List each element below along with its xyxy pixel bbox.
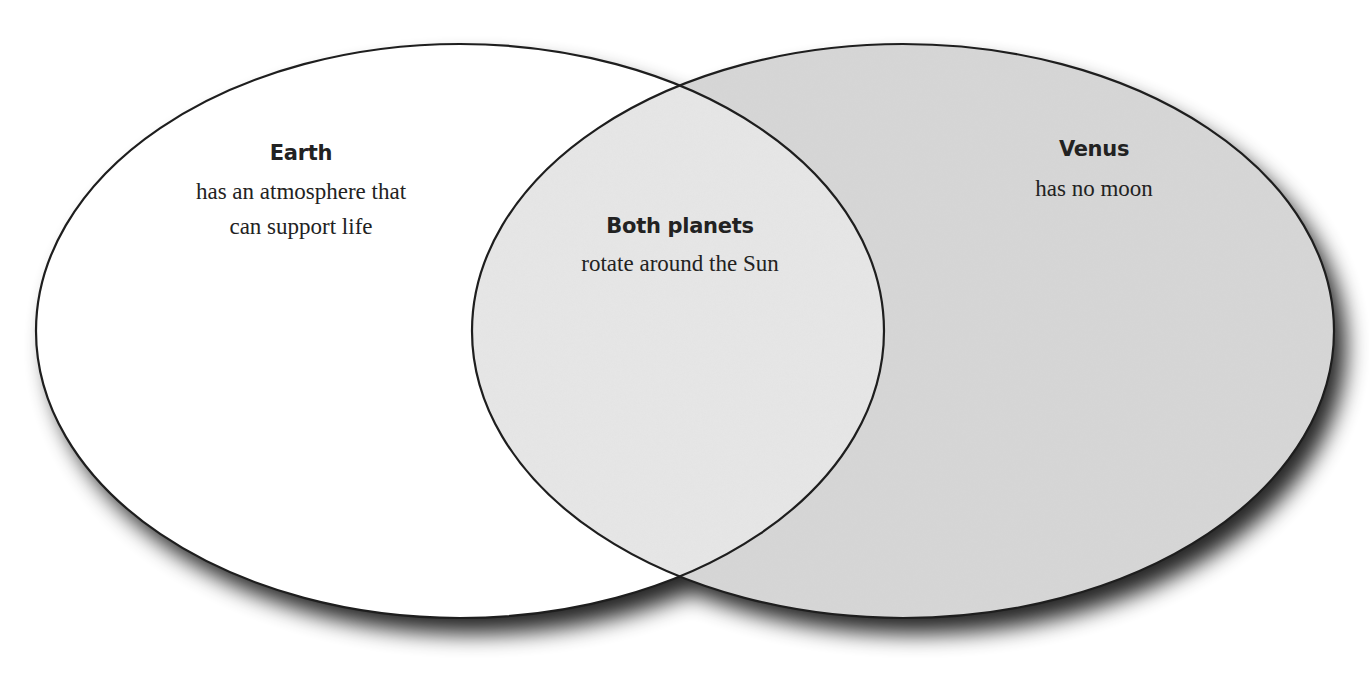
earth-desc-line-2: can support life	[229, 214, 372, 239]
earth-title: Earth	[270, 141, 332, 165]
venn-diagram: Earth has an atmosphere that can support…	[0, 0, 1369, 673]
overlap-title: Both planets	[606, 214, 753, 238]
overlap-desc-line-1: rotate around the Sun	[581, 251, 779, 276]
venus-desc-line-1: has no moon	[1035, 176, 1153, 201]
venus-title: Venus	[1059, 137, 1129, 161]
earth-desc-line-1: has an atmosphere that	[196, 179, 407, 204]
